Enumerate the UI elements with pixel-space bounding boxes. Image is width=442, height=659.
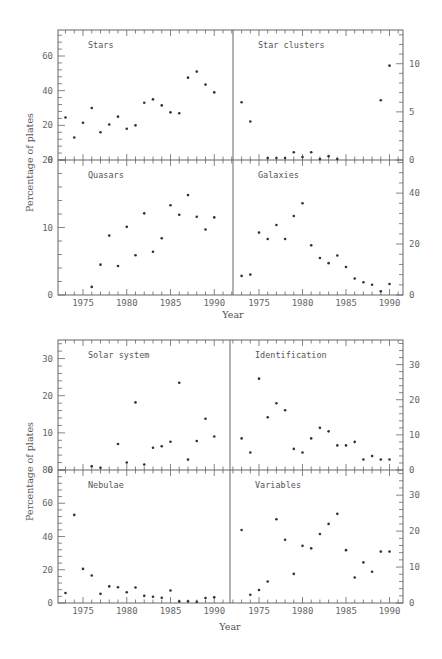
data-point (99, 466, 102, 469)
y-tick-label: 10 (409, 430, 420, 440)
data-point (275, 224, 278, 227)
data-point (362, 458, 365, 461)
data-point (284, 238, 287, 241)
data-point (327, 430, 330, 433)
data-point (117, 115, 120, 118)
x-tick-label: 1985 (160, 606, 182, 616)
data-point (301, 202, 304, 205)
data-point (213, 435, 216, 438)
data-point (258, 231, 261, 234)
data-point (152, 251, 155, 254)
x-axis-label: Year (218, 621, 241, 632)
data-point (319, 533, 322, 536)
data-point (249, 273, 252, 276)
data-point (266, 580, 269, 583)
data-point (249, 451, 252, 454)
data-point (327, 262, 330, 265)
data-point (266, 238, 269, 241)
x-tick-label: 1990 (379, 298, 401, 308)
data-point (178, 381, 181, 384)
x-tick-label: 1975 (72, 606, 94, 616)
data-point (99, 263, 102, 266)
data-point (143, 212, 146, 215)
x-tick-label: 1980 (116, 606, 138, 616)
data-point (169, 589, 172, 592)
x-axis-label: Year (221, 309, 244, 320)
x-tick-label: 1975 (248, 606, 270, 616)
y-tick-label: 20 (42, 391, 53, 401)
y-tick-label: 60 (42, 51, 53, 61)
data-point (380, 550, 383, 553)
data-point (108, 585, 111, 588)
data-point (249, 593, 252, 596)
data-point (82, 568, 85, 571)
y-tick-label: 80 (42, 465, 53, 475)
y-tick-label: 0 (409, 290, 414, 300)
y-axis-label: Percentage of plates (24, 113, 35, 212)
data-point (380, 458, 383, 461)
data-point (371, 455, 374, 458)
data-point (388, 64, 391, 67)
data-point (152, 595, 155, 598)
data-point (240, 529, 243, 532)
data-point (319, 158, 322, 161)
y-tick-label: 0 (48, 290, 53, 300)
data-point (319, 257, 322, 260)
y-tick-label: 40 (42, 86, 53, 96)
data-point (301, 545, 304, 548)
data-point (275, 518, 278, 521)
data-point (90, 574, 93, 577)
data-point (195, 601, 198, 604)
y-tick-label: 30 (42, 354, 53, 364)
y-tick-label: 20 (42, 120, 53, 130)
x-tick-label: 1980 (116, 298, 138, 308)
data-point (90, 107, 93, 110)
data-point (371, 284, 374, 287)
panel-title: Stars (88, 40, 114, 50)
x-tick-label: 1985 (160, 298, 182, 308)
y-tick-label: 30 (409, 360, 420, 370)
data-point (178, 112, 181, 115)
y-axis-label: Percentage of plates (24, 422, 35, 521)
y-tick-label: 10 (409, 59, 420, 69)
x-tick-label: 1975 (72, 298, 94, 308)
panel-title: Galaxies (258, 170, 299, 180)
x-tick-label: 1990 (379, 606, 401, 616)
data-point (310, 244, 313, 247)
data-point (293, 215, 296, 218)
data-point (213, 91, 216, 94)
data-point (310, 437, 313, 440)
x-tick-label: 1990 (203, 298, 225, 308)
data-point (388, 283, 391, 286)
data-point (143, 595, 146, 598)
data-point (293, 448, 296, 451)
data-point (266, 157, 269, 160)
data-point (187, 76, 190, 79)
data-point (336, 444, 339, 447)
data-point (134, 254, 137, 257)
data-point (82, 121, 85, 124)
data-point (152, 98, 155, 101)
data-point (284, 409, 287, 412)
x-tick-label: 1990 (203, 606, 225, 616)
data-point (266, 416, 269, 419)
data-point (240, 101, 243, 104)
data-point (134, 401, 137, 404)
data-point (249, 120, 252, 123)
y-tick-label: 60 (42, 498, 53, 508)
data-point (187, 458, 190, 461)
panel-title: Star clusters (258, 40, 325, 50)
y-tick-label: 10 (42, 223, 53, 233)
data-point (73, 136, 76, 139)
data-point (301, 451, 304, 454)
data-point (319, 427, 322, 430)
data-point (258, 377, 261, 380)
data-point (195, 440, 198, 443)
panel-title: Variables (255, 480, 301, 490)
panel-title: Nebulae (88, 480, 124, 490)
data-point (336, 513, 339, 516)
data-point (388, 550, 391, 553)
x-tick-label: 1980 (292, 298, 314, 308)
data-point (336, 158, 339, 161)
data-point (371, 570, 374, 573)
